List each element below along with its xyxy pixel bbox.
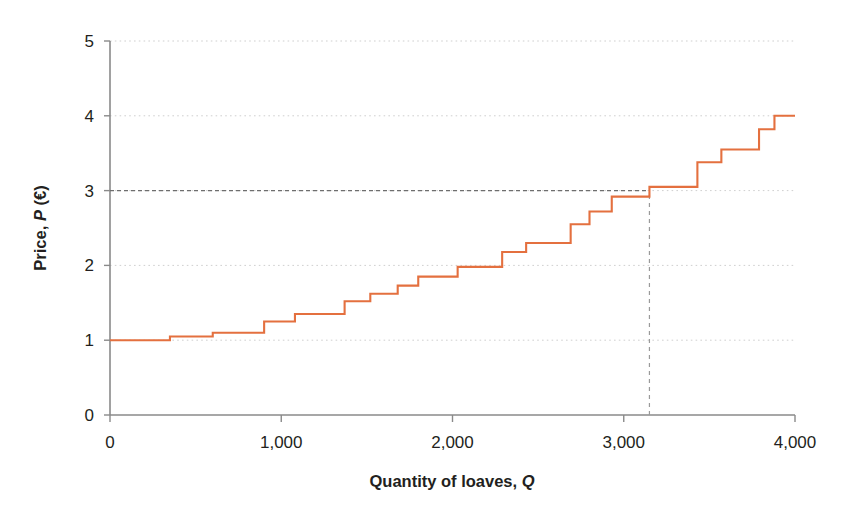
supply-curve-chart: 012345 01,0002,0003,0004,000 Quantity of… xyxy=(0,0,862,526)
x-tick-label-1000: 1,000 xyxy=(260,433,303,452)
x-tick-label-2000: 2,000 xyxy=(431,433,474,452)
y-tick-label-0: 0 xyxy=(85,406,94,425)
chart-canvas: 012345 01,0002,0003,0004,000 Quantity of… xyxy=(0,0,862,526)
annotation-lines xyxy=(110,191,649,415)
supply-curve-path xyxy=(110,116,795,340)
x-axis-title-text: Quantity of loaves, Q xyxy=(369,472,534,490)
x-tick-label-0: 0 xyxy=(105,433,114,452)
y-axis-title-text: Price, P (€) xyxy=(31,185,49,270)
y-axis-ticks xyxy=(104,41,110,415)
y-tick-label-4: 4 xyxy=(85,107,94,126)
y-tick-label-1: 1 xyxy=(85,331,94,350)
axis-lines xyxy=(110,41,795,415)
gridlines xyxy=(110,41,795,340)
y-tick-label-3: 3 xyxy=(85,182,94,201)
y-tick-label-5: 5 xyxy=(85,32,94,51)
x-axis-title: Quantity of loaves, Q xyxy=(369,472,534,490)
x-tick-label-3000: 3,000 xyxy=(602,433,645,452)
y-axis-title: Price, P (€) xyxy=(31,185,49,270)
x-axis-tick-labels: 01,0002,0003,0004,000 xyxy=(105,433,816,452)
x-axis-ticks xyxy=(110,415,795,422)
series-layer xyxy=(110,116,795,340)
y-axis-tick-labels: 012345 xyxy=(85,32,94,425)
y-tick-label-2: 2 xyxy=(85,256,94,275)
x-tick-label-4000: 4,000 xyxy=(774,433,817,452)
